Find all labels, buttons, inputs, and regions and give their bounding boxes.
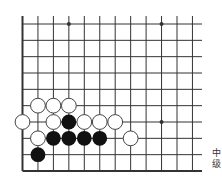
black-stone [61, 131, 76, 146]
white-stone [77, 115, 92, 130]
caption-line-2: 级 [212, 159, 221, 169]
black-stone [46, 131, 61, 146]
white-stone [92, 115, 107, 130]
white-stone [61, 98, 76, 113]
white-stone [15, 115, 30, 130]
white-stone [46, 98, 61, 113]
white-stone [123, 131, 138, 146]
white-stone [108, 115, 123, 130]
stones [15, 98, 138, 162]
star-point [67, 22, 71, 26]
star-point [160, 120, 164, 124]
white-stone [46, 115, 61, 130]
black-stone [61, 115, 76, 130]
caption-line-1: 中 [212, 148, 221, 158]
black-stone [31, 147, 46, 162]
black-stone [92, 131, 107, 146]
star-point [160, 22, 164, 26]
black-stone [77, 131, 92, 146]
board-grid [23, 16, 203, 171]
white-stone [31, 98, 46, 113]
white-stone [31, 131, 46, 146]
go-board [0, 0, 222, 185]
